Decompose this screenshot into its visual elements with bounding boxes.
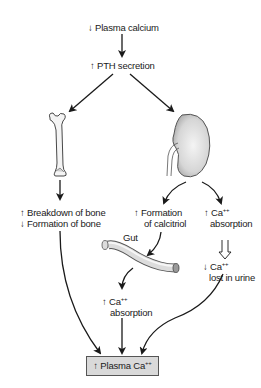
calcium-ion-label: Ca	[109, 296, 121, 307]
arrow-bone-to-plasma	[60, 231, 100, 353]
breakdown-of-bone-label: Breakdown of bone	[27, 207, 105, 218]
kidney-icon	[167, 114, 210, 177]
renal-reabsorption-node: ↑ Ca++ absorption	[204, 207, 252, 229]
arrow-pth-to-kidney	[130, 74, 173, 111]
diagram-arrows	[0, 0, 261, 388]
gut-icon	[102, 241, 179, 273]
up-arrow-icon: ↑	[90, 60, 95, 71]
gut-absorption-node: ↑ Ca++ absorption	[102, 296, 152, 318]
plasma-calcium-node: ↓ Plasma calcium	[88, 22, 159, 33]
gut-label: Gut	[123, 232, 138, 243]
arrow-kidney-to-reabsorption	[202, 182, 221, 203]
pth-secretion-node: ↑ PTH secretion	[90, 60, 155, 71]
calcium-ion-label: Ca	[210, 261, 222, 272]
up-arrow-icon: ↑	[20, 207, 25, 218]
arrow-calcitriol-to-gut	[148, 232, 161, 255]
arrow-kidney-to-calcitriol	[164, 182, 186, 203]
arrow-urine-to-plasma	[142, 274, 223, 353]
up-arrow-icon: ↑	[204, 207, 209, 218]
up-arrow-icon: ↑	[134, 207, 139, 218]
charge-label: ++	[222, 261, 229, 267]
plasma-ca-label: Plasma Ca	[100, 360, 145, 371]
calcium-ion-label: Ca	[211, 207, 223, 218]
up-arrow-icon: ↑	[102, 296, 107, 307]
of-calcitriol-label: of calcitriol	[134, 218, 186, 229]
arrow-pth-to-bone	[70, 74, 113, 111]
lost-in-urine-label: lost in urine	[203, 272, 255, 283]
formation-of-bone-label: Formation of bone	[27, 218, 101, 229]
up-arrow-icon: ↑	[93, 360, 98, 371]
down-arrow-icon: ↓	[88, 22, 93, 33]
urine-loss-node: ↓ Ca++ lost in urine	[203, 261, 255, 283]
pth-secretion-label: PTH secretion	[97, 60, 155, 71]
bone-effects-node: ↑ Breakdown of bone ↓ Formation of bone	[20, 207, 105, 229]
charge-label: ++	[145, 360, 152, 366]
formation-label: Formation	[141, 207, 182, 218]
calcitriol-node: ↑ Formation of calcitriol	[134, 207, 186, 229]
plasma-calcium-result-box: ↑ Plasma Ca++	[86, 356, 159, 376]
down-arrow-icon: ↓	[203, 261, 208, 272]
arrow-gut-to-absorption	[122, 268, 133, 288]
down-arrow-icon: ↓	[20, 218, 25, 229]
charge-label: ++	[121, 296, 128, 302]
bone-icon	[49, 113, 66, 176]
plasma-calcium-label: Plasma calcium	[95, 22, 159, 33]
absorption-label: absorption	[204, 218, 252, 229]
hollow-arrow-reabsorption-to-urine	[219, 240, 231, 259]
charge-label: ++	[223, 207, 230, 213]
absorption-label: absorption	[102, 307, 152, 318]
